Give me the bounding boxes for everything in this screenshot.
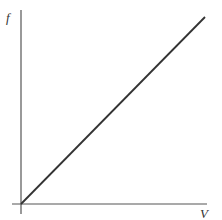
data-line <box>21 17 205 204</box>
proportionality-graph: f V <box>0 0 222 220</box>
x-axis-label: V <box>200 206 210 220</box>
y-axis-label: f <box>6 10 12 25</box>
